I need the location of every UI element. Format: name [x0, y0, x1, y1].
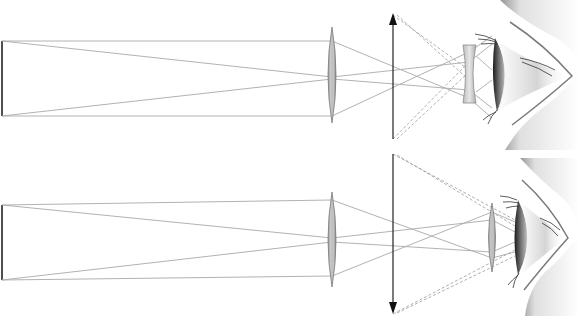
- bottom-eye-icon: [500, 158, 579, 316]
- top-eyepiece-concave-lens: [463, 45, 476, 103]
- bottom-image-arrow: [389, 154, 397, 314]
- top-image-arrow: [389, 13, 397, 139]
- bottom-objective-lens: [328, 192, 336, 287]
- diagram-canvas: [0, 0, 579, 316]
- top-rays: [2, 36, 492, 118]
- bottom-virtual-rays: [393, 154, 515, 314]
- bottom-rays: [2, 200, 515, 280]
- telescope-diagram: [0, 0, 579, 316]
- top-eye-icon: [475, 0, 579, 150]
- top-virtual-rays: [393, 15, 469, 139]
- top-telescope-panel: [2, 0, 579, 150]
- bottom-telescope-panel: [2, 154, 579, 316]
